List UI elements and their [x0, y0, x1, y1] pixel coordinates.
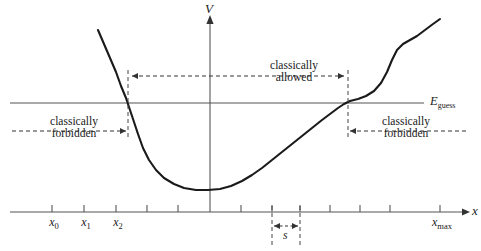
- energy-guess-symbol: E: [430, 94, 438, 108]
- classically-forbidden-right-line2: forbidden: [366, 127, 446, 139]
- tick-label-x2: x2: [108, 216, 128, 229]
- tick-label-xmax-subscript: max: [437, 221, 452, 231]
- potential-curve: [98, 19, 440, 190]
- classically-forbidden-left-label: classically forbidden: [34, 115, 114, 140]
- tick-label-xmax: xmax: [424, 216, 460, 229]
- x-axis-ticks: [52, 205, 440, 212]
- tick-label-x1-subscript: 1: [87, 221, 91, 231]
- classically-forbidden-left-line1: classically: [34, 115, 114, 127]
- tick-label-x2-subscript: 2: [119, 221, 123, 231]
- classically-forbidden-right-line1: classically: [366, 115, 446, 127]
- classically-forbidden-right-label: classically forbidden: [366, 115, 446, 140]
- energy-guess-label: Eguess: [430, 95, 455, 109]
- tick-label-x2-symbol: x: [113, 215, 118, 229]
- x-axis-arrowhead: [462, 208, 470, 215]
- tick-label-x0-symbol: x: [49, 215, 54, 229]
- v-axis-label: V: [205, 2, 213, 16]
- tick-label-x0: x0: [44, 216, 64, 229]
- step-size-label: s: [283, 229, 287, 241]
- potential-energy-diagram: V x Eguess x0 x1 x2 xmax classically all…: [0, 0, 481, 251]
- energy-guess-subscript: guess: [438, 101, 456, 110]
- classically-allowed-label: classically allowed: [254, 59, 334, 84]
- x-axis-label: x: [472, 204, 478, 218]
- tick-label-x1: x1: [76, 216, 96, 229]
- classically-allowed-line1: classically: [254, 59, 334, 71]
- tick-label-x1-symbol: x: [81, 215, 86, 229]
- tick-label-x0-subscript: 0: [55, 221, 59, 231]
- v-axis-arrowhead: [206, 15, 213, 24]
- classically-forbidden-left-line2: forbidden: [34, 127, 114, 139]
- classically-allowed-line2: allowed: [254, 71, 334, 83]
